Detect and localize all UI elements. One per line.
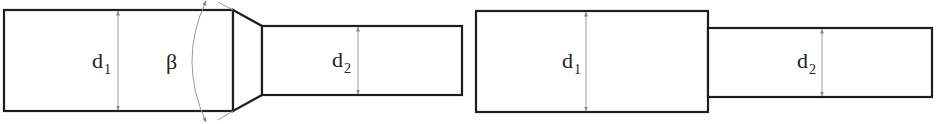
angle-extension-top — [218, 2, 233, 10]
d2-label: d — [332, 47, 343, 72]
d1-subscript: 1 — [574, 62, 581, 77]
beta-label: β — [166, 49, 177, 74]
figure-tapered-shaft: d 1 β d 2 — [4, 1, 462, 122]
small-diameter-section — [262, 26, 462, 95]
small-diameter-section — [708, 28, 932, 97]
figure-stepped-shaft: d 1 d 2 — [476, 11, 932, 112]
d1-label: d — [562, 48, 573, 73]
large-diameter-section — [476, 11, 708, 112]
d2-label: d — [797, 48, 808, 73]
d1-label: d — [92, 48, 103, 73]
d2-subscript: 2 — [344, 61, 351, 76]
angle-extension-bottom — [218, 111, 233, 120]
d2-subscript: 2 — [809, 62, 816, 77]
taper-section — [233, 10, 262, 111]
d1-subscript: 1 — [104, 62, 111, 77]
diagram-canvas: d 1 β d 2 d 1 d 2 — [0, 0, 938, 124]
